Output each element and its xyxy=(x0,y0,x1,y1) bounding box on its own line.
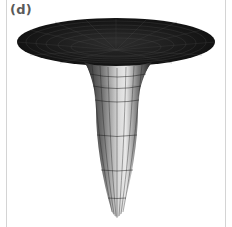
funnel-surface xyxy=(0,0,232,227)
funnel-stem xyxy=(86,64,150,217)
